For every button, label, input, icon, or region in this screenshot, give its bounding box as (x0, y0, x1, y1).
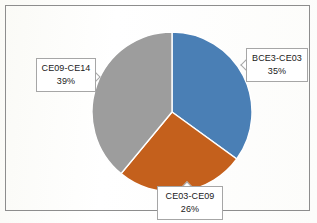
data-label-category: CE09-CE14 (37, 62, 95, 75)
data-label-category: CE03-CE09 (158, 190, 222, 203)
data-label-percent: 26% (158, 203, 222, 216)
pie-plot (92, 32, 252, 192)
screenshot-root: BCE3-CE03 35% CE09-CE14 39% CE03-CE09 26… (0, 0, 317, 223)
data-label-percent: 39% (37, 75, 95, 88)
data-label-ce09-ce14[interactable]: CE09-CE14 39% (36, 58, 96, 92)
data-label-bce3-ce03[interactable]: BCE3-CE03 35% (246, 48, 308, 82)
pie-svg (92, 32, 252, 192)
data-label-ce03-ce09[interactable]: CE03-CE09 26% (157, 186, 223, 220)
data-label-percent: 35% (247, 65, 307, 78)
data-label-category: BCE3-CE03 (247, 52, 307, 65)
